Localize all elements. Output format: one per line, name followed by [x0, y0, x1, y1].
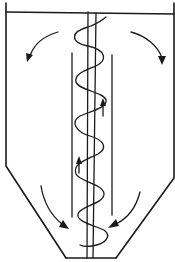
arrow-head-up-lower [76, 156, 82, 164]
arrow-top-left [30, 32, 58, 56]
arrow-cone-left [41, 186, 62, 224]
arrow-head-top-left [26, 53, 33, 62]
vessel-right-wall [116, 3, 174, 258]
arrow-top-right [131, 32, 162, 58]
arrow-head-cone-right [108, 219, 119, 228]
vessel-lid [6, 12, 174, 14]
arrow-cone-right [116, 192, 140, 224]
arrow-head-top-right [158, 56, 166, 65]
hopper-auger-diagram [0, 0, 175, 262]
lift-tube [72, 53, 112, 217]
shaft-right-edge [93, 13, 96, 258]
arrow-head-cone-left [59, 220, 69, 229]
helical-flight [75, 17, 108, 246]
